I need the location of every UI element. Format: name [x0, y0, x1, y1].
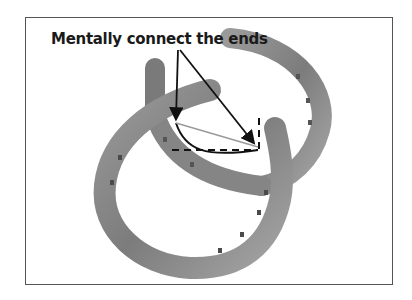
horseshoe-back	[155, 38, 322, 186]
figure-caption: Mentally connect the ends	[51, 30, 268, 48]
